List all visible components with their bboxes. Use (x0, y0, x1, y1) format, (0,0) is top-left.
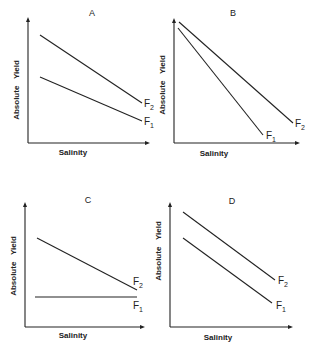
y-axis-label: Absolute Yield (9, 236, 18, 296)
y-axis-label: Absolute Yield (154, 221, 163, 281)
series-line-f1 (183, 238, 272, 303)
panel-b: BSalinityAbsolute YieldF2F1 (158, 8, 305, 158)
panel-title: D (229, 196, 236, 206)
series-line-f1 (178, 28, 263, 135)
series-label-f2: F2 (278, 275, 288, 288)
x-axis-label: Salinity (59, 331, 88, 340)
series-label-f1: F1 (266, 130, 276, 143)
y-axis-arrow-icon (26, 17, 30, 22)
x-axis-arrow-icon (145, 141, 150, 145)
y-axis-arrow-icon (172, 18, 176, 23)
series-line-f2 (183, 212, 275, 280)
series-line-f2 (179, 22, 293, 123)
series-line-f2 (37, 238, 137, 290)
y-axis-label: Absolute Yield (12, 60, 21, 120)
series-label-f2: F2 (133, 276, 143, 289)
y-axis-arrow-icon (23, 202, 27, 207)
series-line-f2 (40, 35, 142, 103)
series-label-f1: F1 (276, 300, 286, 313)
figure-four-panel-yield-vs-salinity: ASalinityAbsolute YieldF2F1BSalinityAbso… (0, 0, 311, 350)
series-label-f1: F1 (133, 300, 143, 313)
panel-a: ASalinityAbsolute YieldF2F1 (12, 8, 154, 157)
y-axis-arrow-icon (168, 202, 172, 207)
x-axis-arrow-icon (140, 325, 145, 329)
series-label-f1: F1 (144, 116, 154, 129)
x-axis-label: Salinity (59, 148, 88, 157)
series-label-f2: F2 (295, 118, 305, 131)
panel-title: B (230, 8, 236, 18)
x-axis-arrow-icon (288, 325, 293, 329)
panel-c: CSalinityAbsolute YieldF2F1 (9, 195, 145, 340)
y-axis-label: Absolute Yield (158, 55, 167, 115)
series-label-f2: F2 (144, 98, 154, 111)
panel-title: A (89, 8, 95, 18)
x-axis-label: Salinity (200, 149, 229, 158)
series-line-f1 (40, 77, 142, 121)
x-axis-arrow-icon (295, 141, 300, 145)
panel-title: C (85, 195, 92, 205)
panel-d: DSalinityAbsolute YieldF2F1 (154, 196, 293, 342)
x-axis-label: Salinity (204, 333, 233, 342)
